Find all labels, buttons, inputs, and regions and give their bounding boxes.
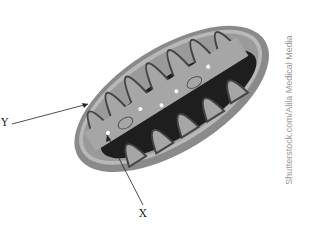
- label-x: X: [139, 207, 147, 220]
- label-y: Y: [1, 116, 8, 129]
- label-y-leader: [12, 104, 88, 124]
- image-credit: Shutterstock.com/Alila Medical Media: [284, 35, 294, 185]
- mitochondrion-illustration: [0, 0, 310, 228]
